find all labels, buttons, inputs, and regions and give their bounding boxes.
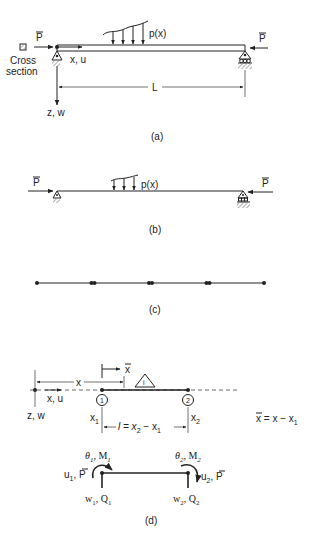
caption-c: (c) [149, 304, 161, 315]
axis-z-label-d: z, w [27, 410, 46, 421]
element-node-3-start [150, 281, 154, 285]
axis-x-label-d: x, u [47, 393, 63, 404]
node-1-dot-fb [100, 471, 104, 475]
xbar-label: x [125, 364, 130, 375]
force-label-left-b: P [33, 177, 40, 188]
cross-section-label-1: Cross [10, 55, 36, 66]
load-label-b: p(x) [141, 179, 158, 190]
element-node-1-start [35, 281, 39, 285]
u1-p-label: u1, P [64, 469, 86, 482]
pin-support-left-a [52, 51, 62, 66]
origin-dot-a [55, 45, 59, 49]
axis-z-label-a: z, w [47, 107, 66, 118]
element-node-2-start [93, 281, 97, 285]
node-1-dot [100, 388, 104, 392]
cross-section-label-2: section [6, 66, 38, 77]
force-label-right-b: P [262, 178, 269, 189]
distributed-load-b [111, 175, 138, 190]
roller-support-right-a [238, 51, 252, 69]
caption-d: (d) [145, 515, 157, 526]
node-2-label: 2 [186, 397, 190, 404]
x2-label: x2 [191, 412, 200, 425]
panel-a: P P Cross section p(x) x, u z, w L [6, 21, 268, 142]
element-label: i [143, 379, 145, 386]
w1-q1-label: w1, Q1 [85, 493, 112, 507]
element-node-4-start [208, 281, 212, 285]
theta2-m2-label: θ2, M2 [175, 450, 201, 464]
x1-label: x1 [90, 412, 99, 425]
xbar-equation: x = x − x1 [256, 413, 298, 426]
axis-x-label-a: x, u [70, 54, 86, 65]
node-2-dot-fb [186, 471, 190, 475]
theta1-m1-label: θ1, M1 [85, 450, 111, 464]
node-1-label: 1 [100, 397, 104, 404]
panel-c: (c) [35, 281, 266, 315]
pin-support-left-b [53, 191, 61, 203]
distributed-load-a [103, 21, 148, 44]
beam-figure: P P Cross section p(x) x, u z, w L [0, 0, 318, 534]
beam-a [57, 45, 245, 51]
length-equation: l = x2 − x1 [118, 421, 161, 434]
force-label-left-a: P [36, 32, 43, 43]
force-label-right-a: P [259, 33, 266, 44]
load-label-a: p(x) [149, 28, 166, 39]
u2-p-label: u2, P [201, 471, 223, 484]
element-node-4-end [262, 281, 266, 285]
panel-d: x, u z, w x x i 1 2 x1 x2 l = x2 − x1 x … [27, 364, 298, 526]
cross-section-icon [20, 44, 26, 50]
caption-b: (b) [149, 224, 161, 235]
w2-q2-label: w2, Q2 [173, 493, 200, 507]
panel-b: P P p(x) (b) [28, 175, 273, 235]
roller-support-right-b [237, 191, 250, 208]
x-dim-label: x [76, 377, 81, 388]
caption-a: (a) [151, 131, 163, 142]
length-label: L [152, 82, 158, 93]
node-2-dot [186, 388, 190, 392]
element-triangle-icon [135, 374, 155, 387]
